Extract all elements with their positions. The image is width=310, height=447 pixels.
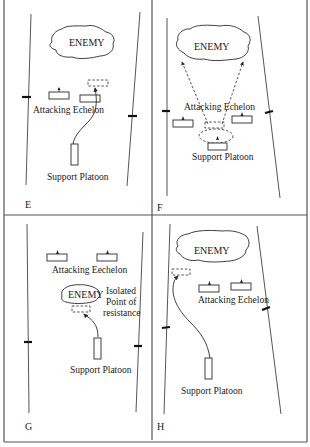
support-platoon-label: Support Platoon bbox=[70, 365, 132, 375]
support-platoon-unit bbox=[94, 338, 101, 359]
figure-frame bbox=[4, 0, 307, 442]
phase-line-tick-right bbox=[265, 111, 273, 113]
objective-position-dashed bbox=[72, 306, 90, 312]
movement-arrow bbox=[84, 314, 98, 337]
attacking-echelon-label: Attacking Eechelon bbox=[52, 265, 127, 275]
road-edge-left bbox=[27, 224, 29, 413]
attacking-unit-2 bbox=[232, 116, 252, 123]
fire-line-left bbox=[182, 62, 208, 124]
isolated-label-line1: Isolated bbox=[106, 286, 136, 296]
support-by-fire-area bbox=[199, 129, 233, 143]
road-edge-left bbox=[164, 224, 170, 414]
attacking-unit-2 bbox=[231, 283, 251, 290]
tactical-diagram: ENEMY Attacking Echelon Support Platoon … bbox=[0, 0, 310, 447]
phase-line-tick-left bbox=[162, 327, 170, 328]
road-edge-right bbox=[258, 16, 280, 198]
support-platoon-label: Support Platoon bbox=[181, 386, 243, 396]
objective-position-dashed bbox=[172, 269, 190, 275]
road-edge-right bbox=[127, 12, 140, 186]
phase-line-tick-right bbox=[262, 307, 270, 310]
attacking-unit-1 bbox=[49, 92, 69, 99]
panel-g: Attacking Eechelon ENEMY Isolated Point … bbox=[24, 224, 143, 432]
attacking-unit-1 bbox=[173, 120, 193, 127]
panel-letter: G bbox=[25, 421, 32, 432]
road-edge-right bbox=[257, 226, 281, 414]
support-platoon-unit bbox=[71, 144, 78, 165]
panel-e: ENEMY Attacking Echelon Support Platoon … bbox=[22, 12, 140, 210]
fire-line-right bbox=[222, 62, 243, 124]
enemy-label: ENEMY bbox=[69, 37, 105, 48]
support-platoon-unit bbox=[208, 143, 227, 150]
objective-position-dashed bbox=[88, 80, 108, 86]
road-edge-left bbox=[26, 14, 31, 185]
enemy-label: ENEMY bbox=[194, 245, 230, 256]
support-platoon-label: Support Platoon bbox=[192, 152, 254, 162]
isolated-enemy-label: ENEMY bbox=[68, 289, 104, 300]
panel-letter: E bbox=[25, 199, 31, 210]
panel-f: ENEMY Attacking Echelon Support Platoon … bbox=[157, 16, 280, 213]
attacking-echelon-label: Attacking Echelon bbox=[33, 105, 104, 115]
attacking-unit-1 bbox=[47, 254, 67, 261]
attacking-echelon-label: Attacking Echelon bbox=[198, 295, 269, 305]
isolated-label-line2: Point of bbox=[106, 297, 137, 307]
attacking-echelon-label: Attacking Echelon bbox=[184, 102, 255, 112]
road-edge-right bbox=[136, 232, 143, 412]
panel-letter: F bbox=[157, 202, 163, 213]
support-platoon-unit bbox=[205, 358, 212, 379]
attacking-unit-2 bbox=[97, 254, 117, 261]
support-platoon-label: Support Platoon bbox=[47, 172, 109, 182]
panel-h: ENEMY Attacking Echelon Support Platoon … bbox=[157, 224, 281, 432]
attacking-unit-2 bbox=[80, 95, 100, 102]
enemy-label: ENEMY bbox=[194, 41, 230, 52]
attacking-unit-1 bbox=[199, 285, 219, 292]
panel-letter: H bbox=[157, 421, 164, 432]
isolated-label-line3: resistance bbox=[103, 308, 140, 318]
